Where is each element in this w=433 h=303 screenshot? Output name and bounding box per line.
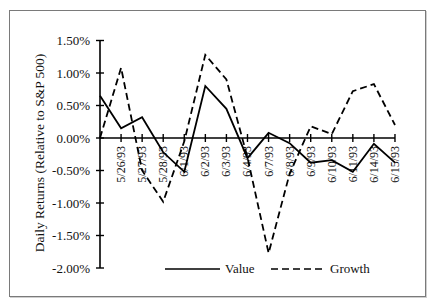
x-tick-label: 6/2/93 xyxy=(198,146,212,177)
y-tick-label: -1.00% xyxy=(52,196,90,211)
x-tick-label: 6/7/93 xyxy=(262,146,276,177)
legend-value-label: Value xyxy=(225,261,255,276)
legend: Value Growth xyxy=(165,261,370,276)
x-tick-label: 5/27/93 xyxy=(135,146,149,183)
x-tick-label: 6/15/93 xyxy=(388,146,402,183)
x-tick-label: 5/26/93 xyxy=(114,146,128,183)
x-tick-label: 6/3/93 xyxy=(219,146,233,177)
y-tick-label: 1.50% xyxy=(56,33,90,48)
legend-growth-label: Growth xyxy=(330,261,370,276)
y-tick-label: -2.00% xyxy=(52,261,90,276)
y-tick-label: 0.50% xyxy=(56,98,90,113)
y-tick-label: -0.50% xyxy=(52,163,90,178)
y-tick-label: -1.50% xyxy=(52,228,90,243)
y-axis: 1.50%1.00%0.50%0.00%-0.50%-1.00%-1.50%-2… xyxy=(52,33,104,276)
y-tick-label: 0.00% xyxy=(56,131,90,146)
y-tick-label: 1.00% xyxy=(56,66,90,81)
line-chart: 1.50%1.00%0.50%0.00%-0.50%-1.00%-1.50%-2… xyxy=(0,0,433,303)
x-tick-label: 6/10/93 xyxy=(325,146,339,183)
y-axis-label: Daily Returns (Relative to S&P 500) xyxy=(32,54,47,253)
